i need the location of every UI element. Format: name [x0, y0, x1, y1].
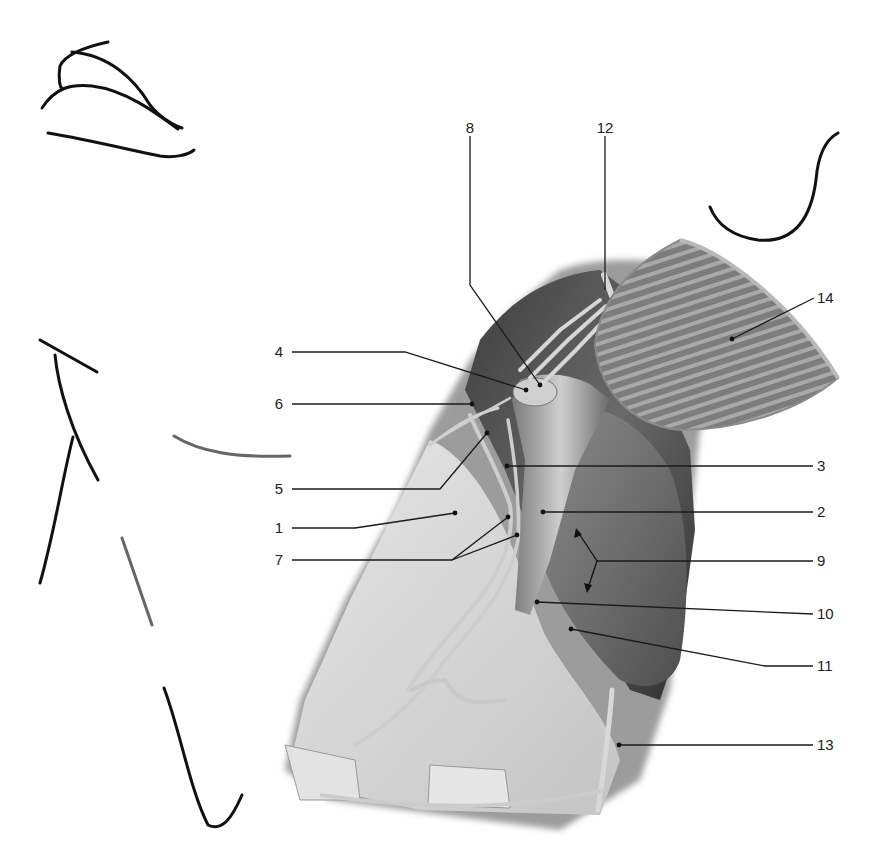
- ear-outline: [59, 42, 108, 88]
- label-5: 5: [275, 480, 283, 497]
- leader-dot-14: [730, 337, 735, 342]
- neck-outline: [48, 133, 194, 157]
- chest-curve: [174, 436, 290, 456]
- label-10: 10: [817, 605, 834, 622]
- label-6: 6: [275, 395, 283, 412]
- leader-dot-1: [453, 511, 458, 516]
- label-7: 7: [275, 551, 283, 568]
- leader-dot-3: [505, 464, 510, 469]
- leader-dot-8: [538, 383, 543, 388]
- arm-elbow-outline: [164, 688, 242, 827]
- label-3: 3: [817, 457, 825, 474]
- arm-line: [122, 538, 152, 625]
- anatomical-figure: 8 12 4 6 5 1 7 14 3 2 9 10 11 13: [0, 0, 879, 850]
- leader-dot-5: [485, 431, 490, 436]
- label-13: 13: [817, 736, 834, 753]
- dissection-illustration: [285, 240, 838, 830]
- leader-dot-13: [617, 743, 622, 748]
- label-9: 9: [817, 552, 825, 569]
- label-12: 12: [597, 119, 614, 136]
- clavicle-outline: [40, 340, 97, 372]
- retractor-pad-center: [428, 765, 510, 808]
- label-14: 14: [817, 289, 834, 306]
- torso-outline-upper: [55, 355, 98, 480]
- torso-outline-lower: [40, 437, 73, 583]
- label-4: 4: [275, 343, 283, 360]
- leader-dot-2: [541, 510, 546, 515]
- label-11: 11: [817, 657, 833, 674]
- leader-dot-7b: [515, 533, 520, 538]
- leader-dot-4: [524, 388, 529, 393]
- label-1: 1: [275, 519, 283, 536]
- label-2: 2: [817, 503, 825, 520]
- jaw-outline: [72, 52, 182, 128]
- chin-outline: [42, 86, 178, 129]
- leader-dot-7a: [506, 515, 511, 520]
- leader-dot-6: [470, 402, 475, 407]
- leader-dot-10: [535, 600, 540, 605]
- leader-dot-11: [569, 627, 574, 632]
- vessel-junction: [513, 378, 557, 406]
- label-8: 8: [466, 119, 474, 136]
- shoulder-outline: [710, 133, 838, 240]
